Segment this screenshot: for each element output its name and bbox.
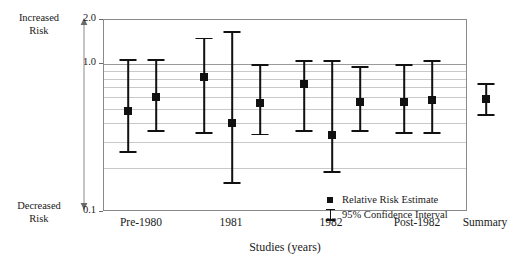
relative-risk-estimate-marker [256, 99, 264, 107]
confidence-interval-lower-cap [352, 130, 369, 132]
confidence-interval-upper-cap [148, 59, 165, 61]
error-bar-point [146, 20, 166, 212]
confidence-interval-lower-cap [478, 114, 495, 116]
confidence-interval-upper-cap [478, 83, 495, 85]
x-axis-title: Studies (years) [103, 240, 467, 255]
error-bar-point [476, 20, 496, 212]
decreased-risk-line1: Decreased [2, 200, 76, 213]
relative-risk-estimate-marker [356, 98, 364, 106]
confidence-interval-lower-cap [120, 151, 137, 153]
increased-risk-line1: Increased [2, 12, 76, 25]
error-bar-point [350, 20, 370, 212]
relative-risk-estimate-marker [228, 119, 236, 127]
relative-risk-estimate-marker [152, 93, 160, 101]
confidence-interval-line [127, 59, 129, 150]
increased-risk-line2: Risk [2, 25, 76, 38]
error-bar-point [294, 20, 314, 212]
confidence-interval-upper-cap [196, 38, 213, 40]
increased-risk-label: Increased Risk [2, 12, 76, 37]
relative-risk-estimate-marker [482, 95, 490, 103]
x-axis-tick-label: 1981 [183, 216, 279, 228]
error-bar-point [250, 20, 270, 212]
confidence-interval-line [203, 38, 205, 132]
confidence-interval-lower-cap [396, 132, 413, 134]
relative-risk-estimate-marker [428, 96, 436, 104]
confidence-interval-lower-cap [324, 171, 341, 173]
confidence-interval-upper-cap [396, 64, 413, 66]
confidence-interval-lower-cap [196, 132, 213, 134]
error-bar-point [322, 20, 342, 212]
legend-item-estimate: Relative Risk Estimate [322, 192, 448, 207]
confidence-interval-lower-cap [424, 132, 441, 134]
error-bar-point [422, 20, 442, 212]
confidence-interval-line [303, 60, 305, 130]
confidence-interval-lower-cap [224, 182, 241, 184]
relative-risk-estimate-marker [300, 80, 308, 88]
decreased-risk-line2: Risk [2, 213, 76, 226]
confidence-interval-lower-cap [252, 134, 269, 136]
confidence-interval-lower-cap [296, 130, 313, 132]
x-axis-tick-label: 1982 [283, 216, 379, 228]
relative-risk-estimate-marker [124, 107, 132, 115]
confidence-interval-upper-cap [352, 66, 369, 68]
confidence-interval-upper-cap [252, 64, 269, 66]
legend-label-estimate: Relative Risk Estimate [342, 192, 438, 207]
relative-risk-forest-plot: Increased Risk Decreased Risk 2.01.00.1 … [0, 0, 509, 265]
y-axis-tick-label: 2.0 [66, 12, 96, 23]
confidence-interval-line [331, 60, 333, 171]
square-marker-icon [322, 197, 338, 203]
error-bar-point [394, 20, 414, 212]
error-bar-point [118, 20, 138, 212]
relative-risk-estimate-marker [200, 73, 208, 81]
y-axis-tick-mark [99, 211, 103, 212]
relative-risk-estimate-marker [328, 131, 336, 139]
confidence-interval-upper-cap [224, 31, 241, 33]
error-bar-point [222, 20, 242, 212]
error-bar-point [194, 20, 214, 212]
confidence-interval-line [231, 31, 233, 182]
confidence-interval-lower-cap [148, 130, 165, 132]
confidence-interval-upper-cap [424, 60, 441, 62]
confidence-interval-upper-cap [324, 60, 341, 62]
relative-risk-estimate-marker [400, 98, 408, 106]
y-axis-tick-label: 0.1 [66, 204, 96, 215]
confidence-interval-upper-cap [120, 59, 137, 61]
x-axis-tick-label: Pre-1980 [93, 216, 189, 228]
confidence-interval-upper-cap [296, 60, 313, 62]
decreased-risk-label: Decreased Risk [2, 200, 76, 225]
risk-direction-double-arrow-icon [79, 18, 89, 210]
y-axis-tick-label: 1.0 [66, 56, 96, 67]
x-axis-tick-label: Summary [437, 216, 509, 228]
plot-area: Relative Risk Estimate 95% Confidence In… [103, 19, 467, 211]
